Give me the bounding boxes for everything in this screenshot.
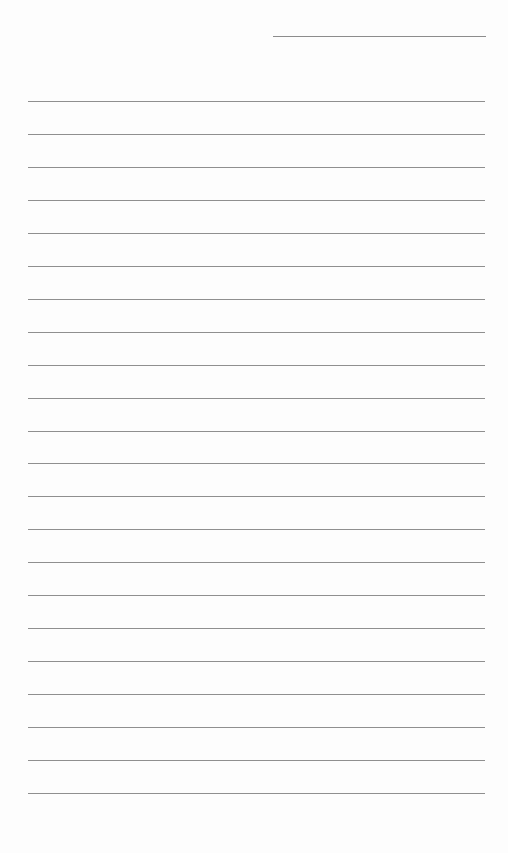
ruled-line	[28, 167, 485, 168]
lined-paper-page	[0, 0, 508, 853]
ruled-line	[28, 398, 485, 399]
ruled-line	[28, 200, 485, 201]
ruled-line	[28, 793, 485, 794]
ruled-line	[28, 529, 485, 530]
ruled-line	[28, 299, 485, 300]
ruled-line	[28, 562, 485, 563]
ruled-line	[28, 365, 485, 366]
ruled-line	[28, 101, 485, 102]
ruled-line	[28, 595, 485, 596]
ruled-line	[28, 431, 485, 432]
ruled-line	[28, 727, 485, 728]
ruled-line	[28, 233, 485, 234]
ruled-line	[28, 760, 485, 761]
ruled-line	[28, 661, 485, 662]
ruled-line	[28, 496, 485, 497]
ruled-line	[28, 694, 485, 695]
ruled-line	[28, 628, 485, 629]
ruled-line	[28, 332, 485, 333]
ruled-line	[28, 134, 485, 135]
ruled-line	[28, 266, 485, 267]
ruled-line	[28, 463, 485, 464]
header-name-line	[273, 36, 486, 37]
